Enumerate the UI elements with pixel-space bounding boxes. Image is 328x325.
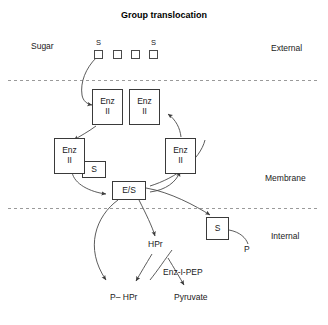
enzyme-substrate-complex-box: E/S — [112, 181, 146, 200]
hpr-label: HPr — [148, 240, 163, 249]
sugar-unit-square-4 — [149, 50, 158, 59]
sugar-unit-square-2 — [113, 50, 122, 59]
internal-sugar-to-phosphate-line — [229, 230, 248, 244]
translocation-arrow-to-internal-sugar — [146, 188, 210, 215]
es-to-phospho-hpr-arrow — [94, 200, 118, 280]
group-translocation-diagram: Group translocation — [0, 0, 328, 325]
es-to-hpr-arrow — [139, 200, 155, 236]
pyruvate-label: Pyruvate — [174, 293, 208, 302]
enzyme-ii-box-right: Enz II — [165, 138, 196, 174]
zone-label-external: External — [271, 44, 302, 53]
enzyme-ii-box-left: Enz II — [54, 138, 85, 174]
enzyme-ii-left-line2: II — [67, 156, 72, 166]
internal-sugar-label: S — [215, 224, 221, 234]
hpr-to-phospho-hpr-arrow — [136, 254, 152, 281]
internal-sugar-box: S — [206, 217, 229, 240]
sugar-label: Sugar — [31, 42, 54, 51]
phospho-hpr-label: P– HPr — [110, 293, 137, 302]
zone-label-membrane: Membrane — [265, 174, 306, 183]
enzyme-ii-box-top-left: Enz II — [92, 89, 123, 125]
cycle-arrow-right-to-topright — [168, 114, 181, 137]
sugar-unit-square-1 — [94, 50, 103, 59]
zone-label-internal: Internal — [271, 232, 299, 241]
enzyme-ii-top-left-line2: II — [105, 107, 110, 117]
enzyme-ii-top-right-line2: II — [142, 107, 147, 117]
enz-i-pep-label: Enz-I-PEP — [163, 268, 203, 277]
phosphate-label: P — [244, 245, 250, 254]
complex-label: E/S — [122, 186, 136, 196]
bound-sugar-box: S — [82, 161, 106, 178]
sugar-unit-mark-4: S — [151, 39, 156, 47]
sugar-unit-mark-1: S — [96, 39, 101, 47]
bound-sugar-label: S — [91, 165, 97, 175]
sugar-unit-square-3 — [131, 50, 140, 59]
enzyme-ii-box-top-right: Enz II — [129, 89, 160, 125]
enzyme-ii-right-line2: II — [178, 156, 183, 166]
